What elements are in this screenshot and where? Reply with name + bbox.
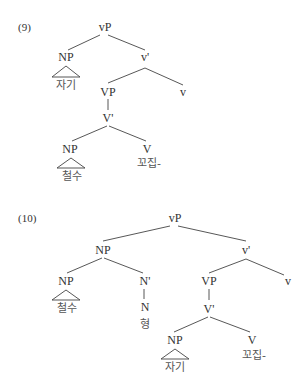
- example-number: (10): [18, 212, 37, 225]
- node-NP-poss: NP: [58, 274, 74, 288]
- node-NP-obj: NP: [167, 333, 183, 347]
- edge: [108, 68, 145, 83]
- edge: [68, 35, 100, 50]
- edge: [246, 259, 284, 275]
- example-number: (9): [18, 21, 31, 34]
- node-v: v: [180, 85, 186, 99]
- node-NP-spec: NP: [95, 243, 111, 257]
- edge: [209, 259, 246, 273]
- edge: [210, 317, 250, 332]
- edge: [145, 68, 183, 85]
- node-v-bar: v': [141, 50, 149, 64]
- tree-9: (9) vP NP 자기 v' VP v V' NP 철수 V 꼬집-: [18, 20, 186, 183]
- node-VP: VP: [201, 274, 217, 288]
- tree-10: (10) vP NP v' NP 철수 N' N 형 VP v V' NP 자기…: [18, 211, 291, 374]
- node-V-bar: V': [204, 302, 215, 316]
- edge: [109, 126, 146, 141]
- word-hyeong: 형: [140, 318, 150, 331]
- word-kkojip: 꼬집-: [242, 349, 266, 362]
- node-V-bar: V': [103, 111, 114, 125]
- word-jagi: 자기: [165, 361, 185, 374]
- node-v-bar: v': [242, 243, 250, 257]
- syntax-trees: (9) vP NP 자기 v' VP v V' NP 철수 V 꼬집- (10)…: [0, 0, 306, 386]
- node-VP: VP: [100, 85, 116, 99]
- node-vP: vP: [169, 211, 182, 225]
- word-jagi: 자기: [56, 79, 76, 92]
- triangle: [161, 349, 189, 359]
- triangle: [52, 66, 80, 77]
- triangle: [57, 158, 85, 168]
- node-NP-spec: NP: [58, 50, 74, 64]
- node-vP: vP: [99, 20, 112, 34]
- node-V: V: [143, 142, 152, 156]
- word-cheolsu: 철수: [62, 170, 82, 183]
- triangle: [52, 290, 80, 300]
- word-kkojip: 꼬집-: [137, 157, 161, 170]
- edge: [108, 35, 145, 50]
- node-N-bar: N': [140, 274, 151, 288]
- edge: [103, 226, 170, 241]
- edge: [178, 226, 246, 241]
- node-N: N: [141, 300, 150, 314]
- edge: [174, 317, 208, 332]
- edge: [72, 126, 107, 141]
- edge: [67, 258, 102, 273]
- node-v: v: [285, 274, 291, 288]
- node-V: V: [248, 333, 257, 347]
- node-NP-obj: NP: [62, 142, 78, 156]
- edge: [104, 258, 143, 273]
- word-cheolsu: 철수: [57, 302, 77, 315]
